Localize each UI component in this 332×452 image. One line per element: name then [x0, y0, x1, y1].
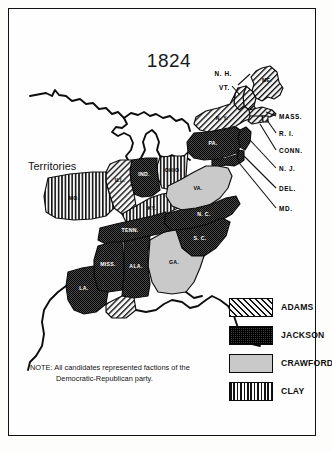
state-label-VA: VA.	[193, 185, 202, 191]
callout-label-MD: MD.	[279, 205, 293, 212]
coastline	[28, 286, 260, 370]
map-legend: ADAMS JACKSON CRAWFORD CLAY	[229, 293, 329, 405]
state-label-GA: GA.	[169, 259, 179, 265]
legend-item-jackson[interactable]: JACKSON	[229, 321, 329, 349]
legend-label-crawford: CRAWFORD	[281, 358, 332, 368]
state-CONN	[248, 116, 263, 124]
state-label-IND: IND.	[138, 171, 150, 177]
election-map-figure: ME. N. Y. PA. OHIO IND. ILL. MO. KY. VA.…	[0, 0, 332, 452]
callout-label-VT: VT.	[219, 84, 230, 91]
state-label-NY: N. Y.	[216, 115, 229, 121]
page-title: 1824	[0, 50, 332, 72]
year-text: 1824	[147, 50, 191, 71]
state-label-PA: PA.	[208, 140, 217, 146]
legend-swatch-crawford	[229, 354, 273, 373]
callout-label-DEL: DEL.	[279, 185, 296, 192]
state-label-OHIO: OHIO	[165, 167, 179, 173]
legend-label-adams: ADAMS	[281, 302, 314, 312]
legend-label-jackson: JACKSON	[281, 330, 324, 340]
state-label-TENN: TENN.	[121, 227, 138, 233]
state-label-NC: N. C.	[197, 211, 211, 217]
note-line-1: NOTE: All candidates represented faction…	[30, 363, 190, 372]
legend-item-crawford[interactable]: CRAWFORD	[229, 349, 329, 377]
callout-label-RI: R. I.	[279, 130, 294, 137]
state-label-KY: KY.	[148, 205, 157, 211]
callout-label-NJ: N. J.	[279, 165, 296, 172]
state-label-SC: S. C.	[193, 235, 206, 241]
great-lakes-outline	[30, 90, 190, 163]
state-MISS	[94, 242, 124, 292]
legend-swatch-jackson	[229, 326, 273, 345]
state-label-LA: LA.	[79, 285, 89, 291]
callout-label-MASS: MASS.	[279, 113, 302, 120]
territories-label: Territories	[28, 160, 76, 172]
state-label-ALA: ALA.	[129, 263, 143, 269]
legend-label-clay: CLAY	[281, 386, 304, 396]
state-label-MISS: MISS.	[100, 261, 116, 267]
state-label-MO: MO.	[69, 195, 80, 201]
legend-swatch-adams	[229, 298, 273, 317]
note-line-2: Democratic-Republican party.	[30, 373, 220, 384]
legend-item-adams[interactable]: ADAMS	[229, 293, 329, 321]
state-IND	[130, 158, 160, 197]
legend-swatch-clay	[229, 382, 273, 401]
state-label-ME: ME.	[262, 77, 272, 83]
territory-florida	[106, 296, 136, 318]
state-label-ILL: ILL.	[115, 177, 126, 183]
figure-note: NOTE: All candidates represented faction…	[30, 362, 220, 384]
callout-label-CONN: CONN.	[279, 147, 303, 154]
legend-item-clay[interactable]: CLAY	[229, 377, 329, 405]
